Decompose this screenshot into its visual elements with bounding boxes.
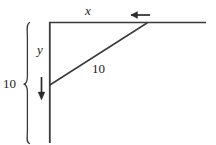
arrow-down-icon [38, 77, 45, 100]
geometry-diagram: x y 10 10 [0, 0, 216, 145]
label-horizontal-leg: x [85, 4, 91, 17]
label-vertical-leg: y [37, 43, 43, 56]
curly-brace-icon [24, 23, 29, 144]
arrow-left-icon [131, 12, 150, 19]
label-total-height: 10 [3, 77, 16, 90]
label-hypotenuse-length: 10 [92, 62, 105, 75]
diagram-canvas [0, 0, 216, 145]
